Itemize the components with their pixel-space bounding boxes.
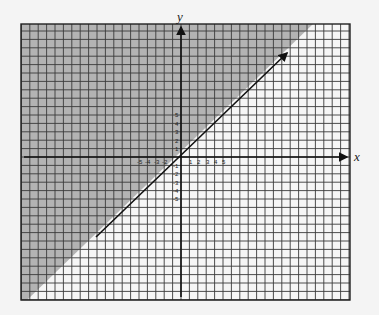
y-tick-neg: -1 — [173, 163, 179, 169]
x-axis-label: x — [353, 149, 360, 164]
coordinate-graph: y x -5 -4 -3 -2 1 2 3 4 5 5 4 3 2 1 -1 -… — [0, 0, 379, 315]
x-tick-neg: -3 — [154, 159, 160, 165]
y-tick-neg: -2 — [173, 171, 179, 177]
y-tick-neg: -5 — [173, 196, 179, 202]
x-tick-neg: -5 — [137, 159, 143, 165]
x-tick-neg: -2 — [162, 159, 168, 165]
y-axis-label: y — [175, 9, 183, 24]
x-tick-neg: -4 — [145, 159, 151, 165]
y-tick-neg: -3 — [173, 180, 179, 186]
y-tick-neg: -4 — [173, 188, 179, 194]
